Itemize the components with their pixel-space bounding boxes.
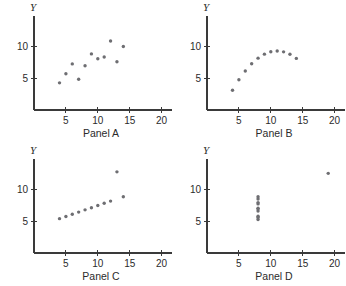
data-point — [96, 57, 99, 60]
data-point — [256, 207, 259, 210]
data-point — [77, 210, 80, 213]
data-point — [288, 53, 291, 56]
y-axis-title: Y — [30, 1, 38, 13]
data-point-series — [58, 39, 125, 84]
y-tick-label: 10 — [17, 41, 29, 52]
x-tick-label: 20 — [329, 258, 341, 269]
panel-caption: Panel C — [82, 270, 120, 282]
data-point — [256, 201, 259, 204]
data-point — [102, 55, 105, 58]
data-point — [244, 69, 247, 72]
y-axis-title: Y — [203, 1, 211, 13]
plot-area-panel-d: 5105101520YPanel D — [173, 143, 346, 286]
data-point — [90, 206, 93, 209]
data-point — [256, 197, 259, 200]
x-tick-label: 5 — [236, 115, 242, 126]
x-tick-label: 20 — [156, 258, 168, 269]
data-point — [90, 52, 93, 55]
data-point — [58, 217, 61, 220]
y-axis-title: Y — [30, 144, 38, 156]
data-point — [83, 208, 86, 211]
y-axis-title: Y — [203, 144, 211, 156]
data-point — [122, 195, 125, 198]
data-point — [256, 216, 259, 219]
data-point — [256, 56, 259, 59]
data-point — [269, 50, 272, 53]
x-tick-label: 10 — [92, 115, 104, 126]
data-point-series — [58, 170, 125, 220]
data-point — [327, 172, 330, 175]
data-point — [275, 49, 278, 52]
data-point — [282, 50, 285, 53]
x-tick-label: 10 — [265, 115, 277, 126]
data-point — [115, 60, 118, 63]
y-tick-label: 10 — [17, 184, 29, 195]
y-tick-label: 5 — [195, 216, 201, 227]
x-tick-label: 15 — [297, 258, 309, 269]
panel-d: 5105101520YPanel D — [173, 143, 346, 286]
panel-caption: Panel A — [83, 127, 119, 139]
y-tick-label: 5 — [22, 216, 28, 227]
data-point — [109, 199, 112, 202]
data-point — [231, 89, 234, 92]
data-point-series — [231, 49, 298, 92]
y-tick-label: 5 — [195, 73, 201, 84]
x-tick-label: 5 — [236, 258, 242, 269]
data-point — [122, 45, 125, 48]
panel-caption: Panel D — [255, 270, 293, 282]
x-tick-label: 5 — [63, 115, 69, 126]
panel-caption: Panel B — [256, 127, 293, 139]
data-point — [263, 52, 266, 55]
data-point — [77, 78, 80, 81]
data-point — [250, 62, 253, 65]
data-point — [83, 64, 86, 67]
data-point — [71, 213, 74, 216]
x-tick-label: 20 — [329, 115, 341, 126]
x-tick-label: 15 — [124, 115, 136, 126]
data-point — [64, 215, 67, 218]
data-point — [115, 170, 118, 173]
x-tick-label: 20 — [156, 115, 168, 126]
plot-area-panel-b: 5105101520YPanel B — [173, 0, 346, 143]
panel-a: 5105101520YPanel A — [0, 0, 173, 143]
y-tick-label: 5 — [22, 73, 28, 84]
x-tick-label: 15 — [297, 115, 309, 126]
y-tick-label: 10 — [190, 184, 202, 195]
x-tick-label: 5 — [63, 258, 69, 269]
data-point — [295, 57, 298, 60]
x-tick-label: 10 — [92, 258, 104, 269]
data-point-series — [256, 172, 330, 222]
x-tick-label: 15 — [124, 258, 136, 269]
anscombe-quartet-figure: 5105101520YPanel A 5105101520YPanel B 51… — [0, 0, 346, 286]
plot-area-panel-a: 5105101520YPanel A — [0, 0, 173, 143]
y-tick-label: 10 — [190, 41, 202, 52]
data-point — [71, 62, 74, 65]
data-point — [102, 202, 105, 205]
x-tick-label: 10 — [265, 258, 277, 269]
data-point — [64, 72, 67, 75]
data-point — [109, 39, 112, 42]
plot-area-panel-c: 5105101520YPanel C — [0, 143, 173, 286]
data-point — [58, 81, 61, 84]
data-point — [96, 204, 99, 207]
panel-b: 5105101520YPanel B — [173, 0, 346, 143]
panel-c: 5105101520YPanel C — [0, 143, 173, 286]
data-point — [237, 78, 240, 81]
